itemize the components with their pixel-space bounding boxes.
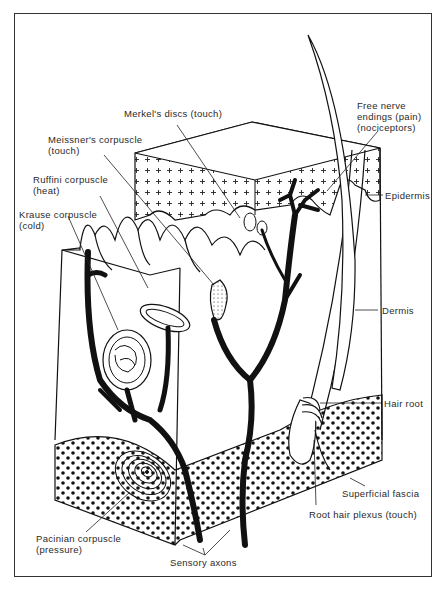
- krause-corpuscle: [103, 330, 151, 390]
- label-pacinian-corpuscle: Pacinian corpuscle (pressure): [36, 533, 121, 555]
- meissner-corpuscle: [210, 280, 227, 320]
- label-free-nerve-endings: Free nerve endings (pain) (nociceptors): [357, 100, 421, 133]
- label-krause-corpuscle: Krause corpuscle (cold): [19, 209, 97, 231]
- label-meissners-corpuscle: Meissner's corpuscle (touch): [48, 134, 142, 156]
- ruffini-corpuscle: [137, 299, 193, 337]
- label-sensory-axons: Sensory axons: [170, 557, 237, 568]
- label-superficial-fascia: Superficial fascia: [342, 488, 419, 499]
- hair-shaft: [308, 35, 355, 390]
- label-ruffini-corpuscle: Ruffini corpuscle (heat): [33, 174, 108, 196]
- skin-cross-section-drawing: [0, 0, 447, 593]
- label-epidermis: Epidermis: [385, 190, 430, 201]
- dermal-papillae: [80, 217, 265, 272]
- label-merkels-discs: Merkel's discs (touch): [124, 108, 222, 119]
- label-dermis: Dermis: [382, 305, 414, 316]
- label-root-hair-plexus: Root hair plexus (touch): [309, 509, 417, 520]
- label-hair-root: Hair root: [384, 398, 423, 409]
- superficial-fascia-layer: [55, 395, 382, 545]
